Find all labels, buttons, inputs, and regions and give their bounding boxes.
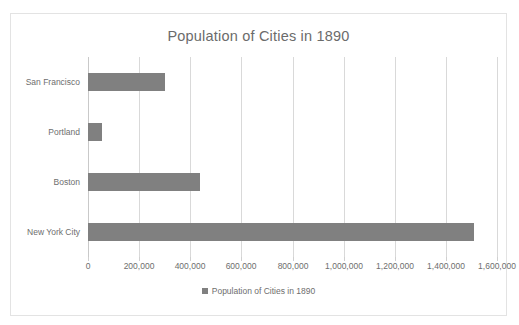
x-axis-label-0: 0 (86, 261, 91, 271)
y-axis-label-boston: Boston (54, 177, 80, 187)
x-axis-label-400000: 400,000 (175, 261, 206, 271)
scan-artifact-strip (0, 0, 519, 10)
bar-san-francisco[interactable] (88, 73, 165, 91)
bar-row (88, 173, 497, 191)
bar-row (88, 223, 497, 241)
legend-entry-label: Population of Cities in 1890 (212, 286, 316, 296)
plot-area (88, 57, 497, 257)
x-axis-label-1400000: 1,400,000 (427, 261, 465, 271)
y-axis-category-labels: San FranciscoPortlandBostonNew York City (11, 57, 84, 257)
x-axis-label-600000: 600,000 (226, 261, 257, 271)
x-axis-label-200000: 200,000 (124, 261, 155, 271)
y-axis-label-new-york-city: New York City (27, 227, 80, 237)
bar-portland[interactable] (88, 123, 102, 141)
x-axis-label-800000: 800,000 (278, 261, 309, 271)
bars-layer (88, 57, 497, 257)
chart-title: Population of Cities in 1890 (11, 28, 506, 44)
x-axis-value-labels: 0200,000400,000600,000800,0001,000,0001,… (88, 261, 497, 275)
bar-row (88, 123, 497, 141)
screenshot-canvas: Population of Cities in 1890 San Francis… (0, 0, 519, 325)
gridline-1600000 (497, 57, 498, 257)
y-axis-label-portland: Portland (48, 127, 80, 137)
square-swatch-icon (202, 288, 208, 294)
x-axis-label-1000000: 1,000,000 (325, 261, 363, 271)
bar-boston[interactable] (88, 173, 200, 191)
x-axis-label-1600000: 1,600,000 (478, 261, 516, 271)
chart-legend: Population of Cities in 1890 (11, 286, 506, 296)
bar-new-york-city[interactable] (88, 223, 474, 241)
chart-container: Population of Cities in 1890 San Francis… (10, 13, 507, 316)
x-axis-label-1200000: 1,200,000 (376, 261, 414, 271)
y-axis-label-san-francisco: San Francisco (26, 77, 80, 87)
bar-row (88, 73, 497, 91)
